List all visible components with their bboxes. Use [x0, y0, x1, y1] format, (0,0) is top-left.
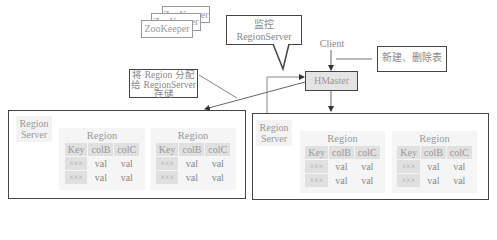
- table-header-row: Key colB colC: [397, 146, 471, 159]
- cell-value: val: [421, 160, 446, 173]
- region-block: Region Key colB colC ××× val val ××× val…: [392, 131, 477, 193]
- region-title: Region: [392, 131, 477, 145]
- table-header-row: Key colB colC: [156, 143, 230, 156]
- region-table: Key colB colC ××× val val ××× val val: [396, 145, 472, 188]
- cell-value: val: [329, 174, 354, 187]
- cell-value: val: [88, 171, 113, 184]
- region-block: Region Key colB colC ××× val val ××× val…: [59, 128, 145, 190]
- header-key: Key: [156, 143, 179, 156]
- label-line: Server: [256, 133, 292, 144]
- cell-value: val: [447, 160, 472, 173]
- region-table: Key colB colC ××× val val ××× val val: [64, 142, 140, 185]
- cell-value: val: [88, 157, 113, 170]
- cell-value: val: [205, 171, 230, 184]
- region-title: Region: [300, 131, 385, 145]
- label-line: Server: [16, 129, 52, 140]
- region-table: Key colB colC ××× val val ××× val val: [155, 142, 231, 185]
- table-row: ××× val val: [65, 157, 139, 170]
- table-row: ××× val val: [305, 174, 379, 187]
- region-block: Region Key colB colC ××× val val ××× val…: [300, 131, 385, 193]
- table-row: ××× val val: [156, 157, 230, 170]
- region-server-right: Region Server Region Key colB colC ××× v…: [252, 113, 489, 200]
- cell-value: val: [179, 157, 204, 170]
- label-line: Region: [256, 122, 292, 133]
- create-delete-table-box: 新建、删除表: [377, 46, 447, 72]
- cell-value: val: [205, 157, 230, 170]
- header-key: Key: [397, 146, 420, 159]
- assign-region-callout: 将 Region 分配 给 RegionServer 存储: [129, 69, 198, 98]
- region-title: Region: [150, 128, 236, 142]
- row-key: ×××: [65, 157, 88, 170]
- region-title: Region: [59, 128, 145, 142]
- cell-value: val: [179, 171, 204, 184]
- header-colb: colB: [88, 143, 113, 156]
- header-colc: colC: [447, 146, 472, 159]
- header-colc: colC: [205, 143, 230, 156]
- header-colb: colB: [421, 146, 446, 159]
- row-key: ×××: [156, 157, 179, 170]
- table-row: ××× val val: [156, 171, 230, 184]
- table-header-row: Key colB colC: [305, 146, 379, 159]
- cell-value: val: [421, 174, 446, 187]
- client-label: Client: [315, 38, 349, 49]
- row-key: ×××: [305, 160, 328, 173]
- row-key: ×××: [65, 171, 88, 184]
- cell-value: val: [355, 174, 380, 187]
- region-block: Region Key colB colC ××× val val ××× val…: [150, 128, 236, 190]
- cell-value: val: [355, 160, 380, 173]
- row-key: ×××: [305, 174, 328, 187]
- table-header-row: Key colB colC: [65, 143, 139, 156]
- cell-value: val: [447, 174, 472, 187]
- header-key: Key: [65, 143, 88, 156]
- header-colb: colB: [179, 143, 204, 156]
- row-key: ×××: [397, 160, 420, 173]
- cell-value: val: [114, 171, 139, 184]
- table-row: ××× val val: [65, 171, 139, 184]
- region-server-label: Region Server: [16, 116, 52, 142]
- table-row: ××× val val: [397, 174, 471, 187]
- row-key: ×××: [397, 174, 420, 187]
- callout-line: 存储: [130, 90, 197, 100]
- region-server-left: Region Server Region Key colB colC ××× v…: [8, 110, 246, 199]
- region-server-label: Region Server: [256, 120, 292, 146]
- header-key: Key: [305, 146, 328, 159]
- region-table: Key colB colC ××× val val ××× val val: [304, 145, 380, 188]
- table-row: ××× val val: [397, 160, 471, 173]
- header-colc: colC: [114, 143, 139, 156]
- row-key: ×××: [156, 171, 179, 184]
- hmaster-node: HMaster: [305, 71, 358, 91]
- label-line: Region: [16, 118, 52, 129]
- header-colb: colB: [329, 146, 354, 159]
- cell-value: val: [329, 160, 354, 173]
- header-colc: colC: [355, 146, 380, 159]
- cell-value: val: [114, 157, 139, 170]
- table-row: ××× val val: [305, 160, 379, 173]
